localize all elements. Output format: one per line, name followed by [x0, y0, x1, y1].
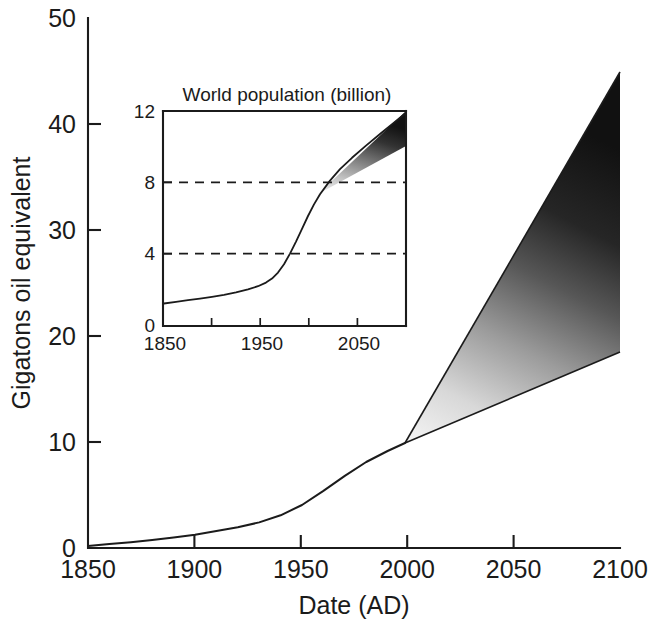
main-history-curve — [88, 443, 405, 546]
y-axis-title: Gigatons oil equivalent — [7, 156, 35, 409]
inset-plot: 12 8 4 0 1850 1950 2050 World population… — [134, 84, 406, 354]
inset-ytick-12: 12 — [134, 101, 155, 122]
main-xtick-1950: 1950 — [273, 555, 329, 583]
inset-xtick-1950: 1950 — [241, 333, 283, 354]
inset-xtick-2050: 2050 — [338, 333, 380, 354]
main-ytick-30: 30 — [48, 216, 76, 244]
inset-ytick-4: 4 — [144, 243, 155, 264]
main-y-ticks — [88, 124, 101, 442]
main-xtick-1900: 1900 — [167, 555, 223, 583]
main-ytick-50: 50 — [48, 4, 76, 32]
figure-root: 50 40 30 20 10 0 1850 1900 1950 2000 205… — [0, 0, 658, 629]
inset-title: World population (billion) — [183, 84, 392, 105]
inset-xtick-1850: 1850 — [144, 333, 186, 354]
main-xtick-2100: 2100 — [592, 555, 648, 583]
main-x-ticks — [194, 535, 513, 548]
inset-ytick-8: 8 — [144, 172, 155, 193]
projection-wedge — [405, 72, 620, 443]
x-axis-title: Date (AD) — [298, 591, 409, 619]
main-xtick-2050: 2050 — [486, 555, 542, 583]
main-ytick-10: 10 — [48, 428, 76, 456]
energy-projection-figure: 50 40 30 20 10 0 1850 1900 1950 2000 205… — [0, 0, 658, 629]
main-ytick-20: 20 — [48, 322, 76, 350]
main-xtick-2000: 2000 — [379, 555, 435, 583]
main-xtick-1850: 1850 — [60, 555, 116, 583]
main-ytick-40: 40 — [48, 110, 76, 138]
